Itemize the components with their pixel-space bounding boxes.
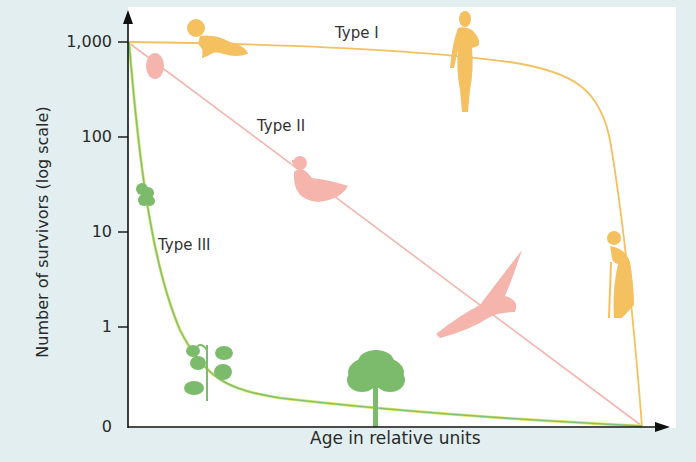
type3-label: Type III	[158, 236, 211, 254]
standing-woman-icon	[450, 11, 479, 112]
hawk-icon	[436, 250, 522, 338]
type1-label: Type I	[335, 24, 379, 42]
egg-icon	[146, 53, 164, 79]
y-axis-arrow-icon	[123, 10, 133, 24]
x-axis-arrow-icon	[655, 422, 670, 432]
tree-icon	[347, 350, 405, 427]
y-tick-0: 0	[32, 417, 112, 436]
y-ticks	[118, 42, 128, 327]
seedling-icon	[184, 345, 233, 401]
duckling-icon	[292, 156, 348, 202]
y-axis-label: Number of survivors (log scale)	[33, 106, 52, 357]
y-tick-1000: 1,000	[32, 32, 112, 51]
type2-label: Type II	[257, 117, 305, 135]
x-axis-label: Age in relative units	[310, 428, 481, 448]
crawling-baby-icon	[187, 19, 248, 58]
seed-cluster-icon	[136, 183, 155, 206]
elderly-person-icon	[607, 231, 634, 318]
